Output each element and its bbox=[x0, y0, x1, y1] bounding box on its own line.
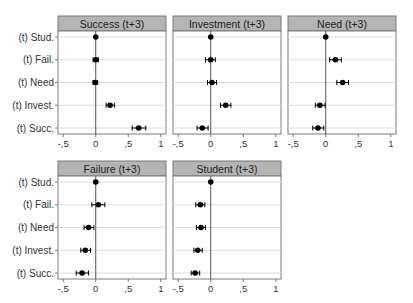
coefficient-marker bbox=[93, 179, 99, 185]
panel-title: Investment (t+3) bbox=[189, 18, 265, 30]
coefficient-marker bbox=[223, 102, 229, 108]
coefficient-marker bbox=[83, 247, 89, 253]
x-tick-label: 1 bbox=[273, 283, 278, 294]
panel-title: Need (t+3) bbox=[317, 18, 367, 30]
x-tick-label: ,5 bbox=[239, 138, 247, 149]
coefficient-marker bbox=[93, 34, 99, 40]
x-tick-label: 0 bbox=[93, 283, 98, 294]
coefficient-marker bbox=[317, 102, 323, 108]
coefficient-marker bbox=[340, 80, 346, 86]
coefficient-marker bbox=[198, 202, 204, 208]
panel-student: Student (t+3)-,50,51 bbox=[173, 161, 281, 294]
coefficient-marker bbox=[323, 34, 329, 40]
x-tick-label: -,5 bbox=[58, 283, 69, 294]
x-tick-label: -,5 bbox=[288, 138, 299, 149]
coefficient-marker bbox=[86, 225, 92, 231]
coefficient-marker bbox=[208, 179, 214, 185]
y-tick-label: (t) Need bbox=[18, 77, 54, 88]
panel-title: Success (t+3) bbox=[80, 18, 144, 30]
panel-investment: Investment (t+3)-,50,51 bbox=[173, 16, 281, 149]
x-tick-label: 0 bbox=[208, 283, 213, 294]
x-tick-label: -,5 bbox=[173, 283, 184, 294]
y-tick-label: (t) Succ. bbox=[17, 123, 54, 134]
coefficient-marker bbox=[315, 125, 321, 131]
coefficient-marker bbox=[198, 225, 204, 231]
x-tick-label: 1 bbox=[388, 138, 393, 149]
x-tick-label: ,5 bbox=[354, 138, 362, 149]
x-tick-label: 0 bbox=[323, 138, 328, 149]
panel-failure: Failure (t+3)(t) Stud.(t) Fail.(t) Need(… bbox=[12, 161, 166, 294]
x-tick-label: 0 bbox=[208, 138, 213, 149]
panel-success: Success (t+3)(t) Stud.(t) Fail.(t) Need(… bbox=[12, 16, 166, 149]
coefficient-marker bbox=[208, 34, 214, 40]
coefficient-marker bbox=[333, 57, 339, 63]
panel-title: Failure (t+3) bbox=[84, 163, 141, 175]
x-tick-label: 1 bbox=[273, 138, 278, 149]
x-tick-label: ,5 bbox=[239, 283, 247, 294]
coefficient-marker bbox=[208, 57, 214, 63]
x-tick-label: -,5 bbox=[173, 138, 184, 149]
x-tick-label: -,5 bbox=[58, 138, 69, 149]
coefficient-marker bbox=[199, 125, 205, 131]
coefficient-marker bbox=[107, 102, 113, 108]
panel-need: Need (t+3)-,50,51 bbox=[288, 16, 396, 149]
coefficient-marker bbox=[209, 80, 215, 86]
coefficient-marker bbox=[93, 57, 99, 63]
y-tick-label: (t) Stud. bbox=[18, 32, 54, 43]
x-tick-label: 1 bbox=[158, 138, 163, 149]
chart-canvas: Success (t+3)(t) Stud.(t) Fail.(t) Need(… bbox=[0, 0, 413, 303]
coefficient-marker bbox=[79, 270, 85, 276]
coefficient-marker bbox=[96, 202, 102, 208]
x-tick-label: 0 bbox=[93, 138, 98, 149]
y-tick-label: (t) Stud. bbox=[18, 177, 54, 188]
x-tick-label: ,5 bbox=[124, 283, 132, 294]
x-tick-label: ,5 bbox=[124, 138, 132, 149]
coefficient-marker bbox=[136, 125, 142, 131]
x-tick-label: 1 bbox=[158, 283, 163, 294]
panel-title: Student (t+3) bbox=[197, 163, 258, 175]
coefficient-marker bbox=[195, 247, 201, 253]
y-tick-label: (t) Succ. bbox=[17, 268, 54, 279]
y-tick-label: (t) Fail. bbox=[23, 54, 54, 65]
y-tick-label: (t) Invest. bbox=[12, 100, 54, 111]
y-tick-label: (t) Fail. bbox=[23, 199, 54, 210]
y-tick-label: (t) Invest. bbox=[12, 245, 54, 256]
y-tick-label: (t) Need bbox=[18, 222, 54, 233]
coefficient-marker bbox=[92, 80, 98, 86]
coefficient-marker bbox=[192, 270, 198, 276]
coefficient-plot-grid: Success (t+3)(t) Stud.(t) Fail.(t) Need(… bbox=[0, 0, 413, 303]
